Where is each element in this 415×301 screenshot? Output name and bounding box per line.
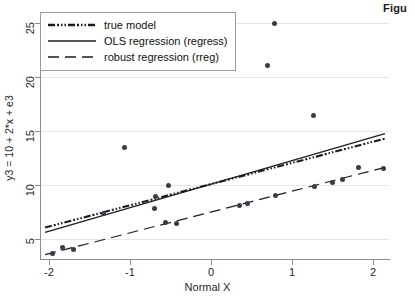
scatter-point: [60, 245, 65, 250]
scatter-point: [163, 220, 168, 225]
scatter-point: [356, 165, 361, 170]
scatter-point: [50, 251, 55, 256]
scatter-point: [245, 201, 250, 206]
scatter-point: [237, 203, 242, 208]
legend-item-1: OLS regression (regress): [47, 33, 228, 49]
legend-label: true model: [97, 19, 156, 31]
scatter-point: [272, 21, 277, 26]
legend-key-dash-dot-dotted: [47, 18, 97, 32]
legend: true modelOLS regression (regress)robust…: [40, 12, 236, 71]
legend-label: robust regression (rreg): [97, 51, 219, 63]
scatter-point: [265, 63, 270, 68]
scatter-point: [311, 113, 316, 118]
scatter-point: [122, 145, 127, 150]
figure-container: Figu 510152025 -2-1012 Normal X y3 = 10 …: [0, 0, 415, 301]
legend-key-long-dashed: [47, 50, 97, 64]
legend-item-0: true model: [47, 17, 228, 33]
legend-label: OLS regression (regress): [97, 35, 228, 47]
scatter-point: [152, 206, 157, 211]
scatter-point: [330, 180, 335, 185]
legend-item-2: robust regression (rreg): [47, 49, 228, 65]
graph: 510152025 -2-1012 Normal X y3 = 10 + 2*x…: [0, 0, 415, 301]
scatter-point: [273, 193, 278, 198]
legend-key-solid: [47, 34, 97, 48]
scatter-point: [381, 166, 386, 171]
scatter-point: [340, 177, 345, 182]
